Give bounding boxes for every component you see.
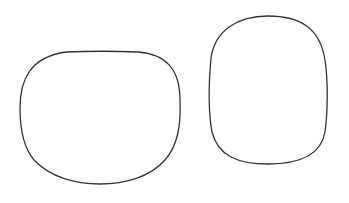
background <box>0 0 349 203</box>
drawing-canvas <box>0 0 349 203</box>
